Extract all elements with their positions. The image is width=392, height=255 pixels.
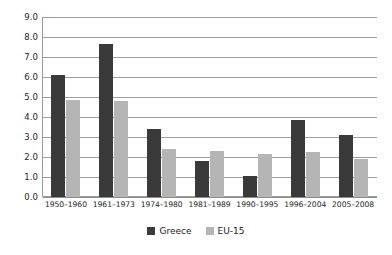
chart-legend: GreeceEU-15 <box>0 226 392 236</box>
y-axis-tick-label: 5.0 <box>4 93 38 102</box>
x-axis-tick-label: 1996–2004 <box>281 200 329 210</box>
bar-greece-4 <box>195 161 209 197</box>
y-axis-tick-label: 9.0 <box>4 13 38 22</box>
legend-swatch-icon <box>206 227 214 235</box>
bar-group <box>281 17 329 197</box>
y-axis: 9.08.07.06.05.04.03.02.01.00.0 <box>0 17 38 197</box>
x-axis: 1950–19601961–19731974–19801981–19891990… <box>42 200 377 210</box>
bar-eu-15-3 <box>162 149 176 197</box>
bar-eu-15-4 <box>210 151 224 197</box>
bar-group <box>186 17 234 197</box>
y-axis-tick-label: 8.0 <box>4 33 38 42</box>
bar-greece-3 <box>147 129 161 197</box>
bar-eu-15-6 <box>306 152 320 197</box>
y-axis-tick-label: 4.0 <box>4 113 38 122</box>
legend-swatch-icon <box>147 227 155 235</box>
legend-label: Greece <box>159 226 191 236</box>
bar-eu-15-1 <box>66 100 80 197</box>
bar-group <box>90 17 138 197</box>
legend-item-greece: Greece <box>147 226 191 236</box>
y-axis-tick-label: 1.0 <box>4 173 38 182</box>
y-axis-tick-label: 6.0 <box>4 73 38 82</box>
x-axis-tick-label: 1950–1960 <box>42 200 90 210</box>
y-axis-tick-label: 7.0 <box>4 53 38 62</box>
legend-item-eu-15: EU-15 <box>206 226 245 236</box>
bar-group <box>329 17 377 197</box>
bar-eu-15-5 <box>258 154 272 197</box>
bar-group <box>138 17 186 197</box>
bar-greece-7 <box>339 135 353 197</box>
bar-eu-15-2 <box>114 101 128 197</box>
bar-greece-1 <box>51 75 65 197</box>
bar-group <box>42 17 90 197</box>
legend-label: EU-15 <box>218 226 245 236</box>
bar-group <box>233 17 281 197</box>
x-axis-tick-label: 2005–2008 <box>329 200 377 210</box>
x-axis-tick-label: 1961–1973 <box>90 200 138 210</box>
x-axis-tick-label: 1990–1995 <box>233 200 281 210</box>
gridline <box>43 197 377 198</box>
bar-greece-2 <box>99 44 113 197</box>
bars-layer <box>42 17 377 197</box>
bar-chart: 9.08.07.06.05.04.03.02.01.00.0 1950–1960… <box>0 0 392 255</box>
y-axis-tick-label: 2.0 <box>4 153 38 162</box>
bar-greece-5 <box>243 176 257 197</box>
bar-greece-6 <box>291 120 305 197</box>
x-axis-tick-label: 1981–1989 <box>186 200 234 210</box>
x-axis-tick-label: 1974–1980 <box>138 200 186 210</box>
y-axis-tick-label: 0.0 <box>4 193 38 202</box>
bar-eu-15-7 <box>354 159 368 197</box>
y-axis-tick-label: 3.0 <box>4 133 38 142</box>
